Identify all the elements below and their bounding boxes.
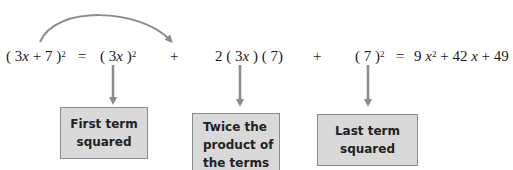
label-twice-product: Twice the product of the terms	[192, 113, 280, 170]
box-line: product of	[203, 136, 273, 154]
label-first-term-squared: First term squared	[60, 107, 148, 159]
box-line: the terms	[203, 154, 269, 170]
box-line: First term	[70, 115, 138, 133]
middle-term: 2 ( 3x ) ( 7)	[215, 47, 283, 65]
lhs-binomial-squared: ( 3x + 7 )2	[6, 47, 66, 65]
equals-sign-2: =	[396, 47, 404, 65]
first-term-squared: ( 3x )2	[100, 47, 136, 65]
plus-sign-1: +	[170, 47, 178, 65]
box-line: squared	[76, 133, 131, 151]
expanded-result: 9 x2 + 42 x + 49	[414, 47, 509, 65]
last-term-squared: ( 7 )2	[355, 47, 385, 65]
box-line: squared	[340, 140, 395, 158]
plus-sign-2: +	[313, 47, 321, 65]
label-last-term-squared: Last term squared	[317, 114, 418, 166]
box-line: Twice the	[203, 118, 267, 136]
box-line: Last term	[335, 122, 400, 140]
equals-sign-1: =	[78, 47, 86, 65]
curved-arrow	[40, 15, 170, 42]
